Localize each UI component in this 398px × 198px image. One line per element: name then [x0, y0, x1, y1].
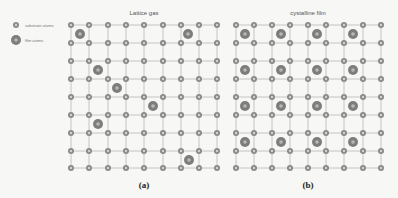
substrate-atom	[86, 76, 92, 82]
film-atom	[183, 29, 193, 39]
substrate-atom	[233, 112, 239, 118]
substrate-atom	[141, 94, 147, 100]
substrate-atom	[341, 76, 347, 82]
substrate-atom	[360, 58, 366, 64]
substrate-atom	[214, 40, 220, 46]
panel-a-lattice	[68, 22, 220, 171]
substrate-atom	[160, 58, 166, 64]
substrate-atom	[287, 130, 293, 136]
substrate-atom	[360, 76, 366, 82]
substrate-atom	[178, 58, 184, 64]
substrate-atom	[123, 22, 129, 28]
substrate-atom	[269, 165, 275, 171]
legend-substrate-label: substrate atoms	[25, 23, 53, 28]
substrate-atom	[68, 130, 74, 136]
substrate-atom	[251, 165, 257, 171]
film-atom	[276, 137, 286, 147]
film-atom	[148, 101, 158, 111]
substrate-atom	[269, 112, 275, 118]
substrate-atom	[123, 148, 129, 154]
substrate-atom	[214, 112, 220, 118]
film-atom	[112, 83, 122, 93]
substrate-atom	[323, 165, 329, 171]
substrate-atom	[287, 112, 293, 118]
substrate-atoms	[233, 22, 384, 171]
substrate-atom	[178, 76, 184, 82]
substrate-atom	[287, 94, 293, 100]
substrate-atom	[378, 148, 384, 154]
substrate-atom	[251, 148, 257, 154]
substrate-atom	[360, 112, 366, 118]
substrate-atom	[196, 165, 202, 171]
substrate-atom	[68, 40, 74, 46]
panel-b-title: cystalline film	[290, 10, 326, 16]
substrate-atom	[323, 94, 329, 100]
substrate-atom	[360, 130, 366, 136]
substrate-atom	[233, 40, 239, 46]
substrate-atom	[214, 165, 220, 171]
substrate-atom	[86, 165, 92, 171]
substrate-atom	[360, 165, 366, 171]
film-atom	[240, 29, 250, 39]
substrate-atom	[251, 130, 257, 136]
substrate-atom	[86, 58, 92, 64]
substrate-atom	[341, 58, 347, 64]
substrate-atom	[160, 165, 166, 171]
substrate-atom	[251, 22, 257, 28]
substrate-atom	[123, 130, 129, 136]
substrate-atom	[269, 148, 275, 154]
substrate-atom	[251, 58, 257, 64]
substrate-atom	[123, 112, 129, 118]
substrate-atom	[305, 40, 311, 46]
substrate-atom	[178, 94, 184, 100]
substrate-atom	[196, 130, 202, 136]
film-atom	[75, 29, 85, 39]
lattice-figure: substrate atoms film atoms Lattice gas c…	[0, 0, 398, 198]
substrate-atom	[196, 94, 202, 100]
substrate-atom	[287, 40, 293, 46]
film-atom	[348, 137, 358, 147]
substrate-atom	[251, 76, 257, 82]
substrate-atom	[233, 130, 239, 136]
substrate-atom	[323, 58, 329, 64]
substrate-atom	[160, 130, 166, 136]
substrate-atom	[378, 94, 384, 100]
substrate-atom	[123, 94, 129, 100]
substrate-atom	[123, 58, 129, 64]
substrate-atom	[123, 40, 129, 46]
panel-b-lattice	[233, 22, 384, 171]
substrate-atom	[378, 165, 384, 171]
substrate-atom	[105, 40, 111, 46]
substrate-atom	[378, 112, 384, 118]
panel-a-title: Lattice gas	[129, 10, 158, 16]
film-atom	[240, 101, 250, 111]
substrate-atom	[287, 165, 293, 171]
substrate-atom	[178, 22, 184, 28]
substrate-atom	[196, 22, 202, 28]
film-atom	[276, 65, 286, 75]
substrate-atom	[341, 40, 347, 46]
film-atom	[240, 137, 250, 147]
substrate-atom	[196, 112, 202, 118]
substrate-atom	[141, 76, 147, 82]
substrate-atom	[86, 148, 92, 154]
substrate-atom	[305, 76, 311, 82]
substrate-atom	[86, 130, 92, 136]
substrate-atom	[160, 148, 166, 154]
substrate-atom	[323, 112, 329, 118]
substrate-atom	[214, 148, 220, 154]
substrate-atom	[68, 165, 74, 171]
substrate-atom	[160, 40, 166, 46]
film-atom	[312, 101, 322, 111]
substrate-atom	[123, 76, 129, 82]
substrate-atom	[105, 165, 111, 171]
substrate-atom	[196, 148, 202, 154]
substrate-atom	[251, 112, 257, 118]
substrate-atom	[214, 58, 220, 64]
substrate-atom	[178, 130, 184, 136]
substrate-atom	[251, 94, 257, 100]
substrate-atom	[378, 22, 384, 28]
substrate-atom	[233, 76, 239, 82]
film-atom	[348, 29, 358, 39]
substrate-atom	[214, 94, 220, 100]
